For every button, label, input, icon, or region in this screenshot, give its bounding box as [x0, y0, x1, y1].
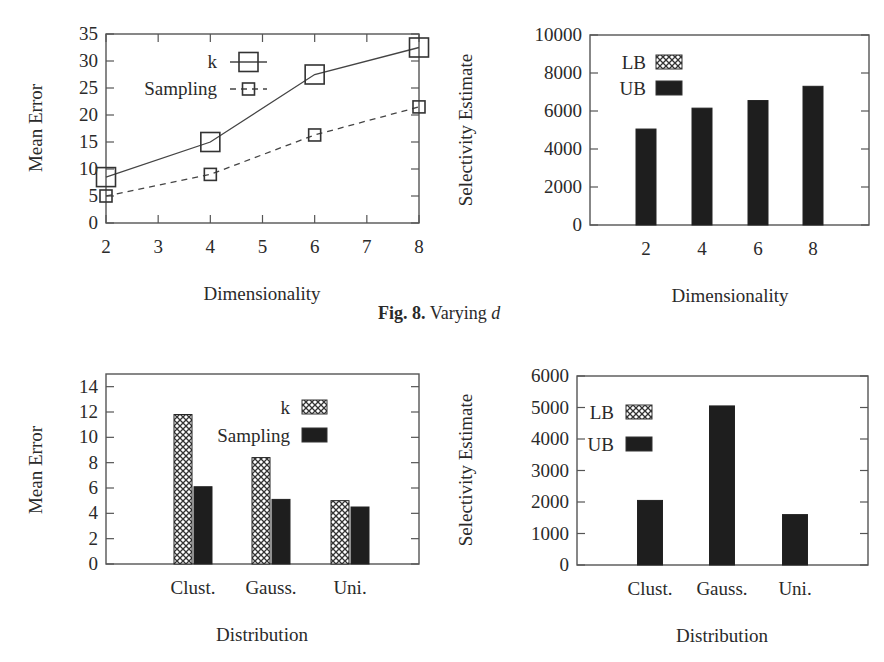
bar-ub [692, 108, 712, 225]
x-tick-label: Uni. [333, 577, 366, 598]
legend-label: Sampling [144, 78, 217, 99]
x-tick-label: 2 [101, 236, 111, 257]
y-tick-label: 12 [79, 401, 98, 422]
y-tick-label: 6 [89, 477, 99, 498]
legend-swatch [626, 437, 652, 451]
y-tick-label: 8000 [544, 62, 582, 83]
y-tick-label: 1000 [531, 523, 569, 544]
x-axis-title: Dimensionality [671, 285, 789, 306]
bar-sampling [194, 487, 212, 564]
series-line [106, 107, 419, 196]
y-tick-label: 15 [79, 131, 98, 152]
x-tick-label: Clust. [171, 577, 216, 598]
y-tick-label: 4000 [544, 138, 582, 159]
y-tick-label: 25 [79, 77, 98, 98]
y-tick-label: 5000 [531, 397, 569, 418]
y-tick-label: 10 [79, 426, 98, 447]
y-tick-label: 4000 [531, 428, 569, 449]
bar-ub [710, 406, 735, 565]
y-tick-label: 8 [89, 452, 99, 473]
x-tick-label: 6 [753, 238, 763, 259]
x-tick-label: 5 [258, 236, 268, 257]
x-tick-label: 8 [808, 238, 818, 259]
y-tick-label: 2 [89, 528, 99, 549]
bar-k [252, 458, 270, 564]
legend-label: LB [622, 52, 646, 73]
y-tick-label: 2000 [544, 176, 582, 197]
y-tick-label: 0 [89, 212, 99, 233]
y-tick-label: 35 [79, 23, 98, 44]
y-axis-title: Mean Error [25, 83, 46, 172]
y-tick-label: 10 [79, 158, 98, 179]
y-tick-label: 5 [89, 185, 99, 206]
x-tick-label: 8 [414, 236, 424, 257]
y-tick-label: 0 [560, 554, 570, 575]
caption-variable: d [491, 303, 500, 323]
y-tick-label: 14 [79, 376, 99, 397]
y-tick-label: 10000 [535, 24, 583, 45]
bar-k [174, 415, 192, 564]
legend-swatch [302, 400, 327, 414]
series-line [106, 48, 419, 178]
y-axis-title: Selectivity Estimate [455, 54, 476, 207]
x-tick-label: Clust. [628, 578, 673, 599]
x-tick-label: 3 [153, 236, 163, 257]
data-point-square [204, 168, 216, 180]
bar-sampling [272, 499, 290, 564]
chart-mean-error-vs-distribution: 02468101214Mean ErrorDistributionClust.G… [25, 374, 419, 645]
y-axis-title: Mean Error [25, 425, 46, 514]
y-tick-label: 30 [79, 50, 98, 71]
caption-label: Fig. 8. [378, 303, 426, 323]
legend-swatch [626, 405, 652, 419]
figure-canvas: 05101520253035Mean ErrorDimensionality23… [0, 0, 884, 662]
x-axis-title: Distribution [676, 625, 768, 646]
x-tick-label: 4 [697, 238, 707, 259]
legend-swatch [656, 55, 682, 69]
x-tick-label: Gauss. [245, 577, 296, 598]
y-tick-label: 6000 [531, 365, 569, 386]
legend-swatch [302, 428, 327, 442]
x-tick-label: 4 [206, 236, 216, 257]
chart-selectivity-vs-dimensionality: 0200040006000800010000Selectivity Estima… [455, 24, 869, 306]
bar-ub [748, 101, 768, 225]
x-tick-label: 6 [310, 236, 320, 257]
data-point-square [309, 129, 321, 141]
legend-label: k [281, 397, 291, 418]
x-tick-label: 2 [641, 238, 651, 259]
bar-ub [638, 500, 663, 565]
legend-label: UB [588, 434, 614, 455]
bar-ub [803, 86, 823, 225]
bar-k [331, 501, 349, 564]
legend-swatch [656, 81, 682, 95]
legend-label: LB [590, 402, 614, 423]
y-tick-label: 6000 [544, 100, 582, 121]
bar-ub [783, 515, 808, 565]
bar-sampling [351, 507, 369, 564]
x-axis-title: Dimensionality [203, 283, 321, 304]
legend-label: Sampling [217, 425, 290, 446]
bar-ub [636, 129, 656, 225]
y-tick-label: 0 [89, 553, 99, 574]
x-axis-title: Distribution [216, 624, 308, 645]
legend-label: UB [620, 78, 646, 99]
y-axis-title: Selectivity Estimate [455, 394, 476, 547]
legend-label: k [208, 51, 218, 72]
chart-mean-error-vs-dimensionality: 05101520253035Mean ErrorDimensionality23… [25, 23, 429, 304]
x-tick-label: Uni. [778, 578, 811, 599]
chart-selectivity-vs-distribution: 0100020003000400050006000Selectivity Est… [455, 365, 868, 646]
x-tick-label: 7 [362, 236, 372, 257]
y-tick-label: 3000 [531, 460, 569, 481]
y-tick-label: 2000 [531, 491, 569, 512]
y-tick-label: 0 [573, 214, 583, 235]
y-tick-label: 20 [79, 104, 98, 125]
y-tick-label: 4 [89, 502, 99, 523]
x-tick-label: Gauss. [696, 578, 747, 599]
caption-text: Varying [430, 303, 487, 323]
figure-caption: Fig. 8. Varying d [378, 303, 500, 324]
